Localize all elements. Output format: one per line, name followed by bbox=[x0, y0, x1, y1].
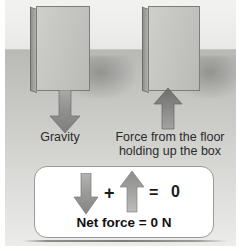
floor-force-label: Force from the floor holding up the box bbox=[100, 131, 240, 158]
equation-equals-sign: = bbox=[149, 184, 158, 202]
box-right-front-face bbox=[148, 6, 200, 91]
gravity-arrow-icon bbox=[48, 90, 82, 134]
net-force-equation-row: + = 0 bbox=[35, 171, 213, 213]
equation-up-arrow-icon bbox=[119, 171, 145, 213]
physics-figure: Gravity Force from the floor holding up … bbox=[0, 0, 247, 251]
equation-result-zero: 0 bbox=[171, 183, 180, 201]
gravity-label: Gravity bbox=[14, 131, 106, 145]
equation-plus-sign: + bbox=[104, 183, 115, 204]
net-force-callout: + = 0 Net force = 0 N bbox=[34, 166, 214, 238]
box-left bbox=[30, 6, 84, 91]
floor-force-label-line2: holding up the box bbox=[119, 144, 221, 158]
normal-force-arrow-icon bbox=[152, 88, 184, 130]
floor-force-label-line1: Force from the floor bbox=[115, 130, 224, 144]
box-right bbox=[142, 6, 194, 91]
equation-down-arrow-icon bbox=[73, 173, 99, 215]
bottom-divider-line bbox=[22, 240, 228, 242]
net-force-statement: Net force = 0 N bbox=[35, 215, 213, 230]
box-left-front-face bbox=[36, 6, 90, 91]
